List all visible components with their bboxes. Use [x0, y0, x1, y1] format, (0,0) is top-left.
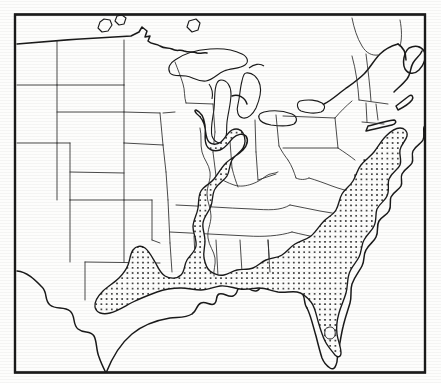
map-canvas [0, 0, 441, 383]
range-map-figure [0, 0, 441, 383]
lake-okeechobee [325, 327, 336, 339]
